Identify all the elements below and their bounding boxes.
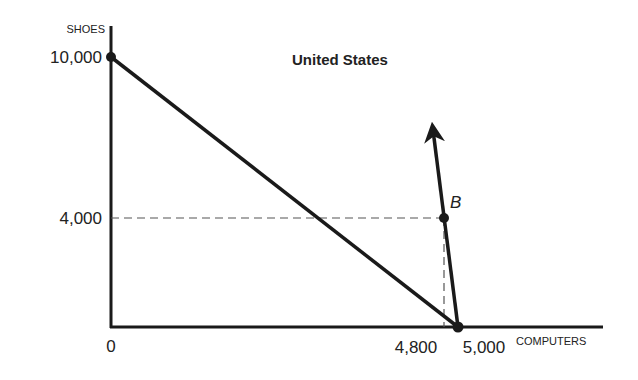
consumption-arrow (433, 130, 458, 327)
point-origin-top (106, 52, 116, 62)
x-tick-4800: 4,800 (395, 338, 438, 357)
x-tick-0: 0 (106, 337, 115, 356)
y-tick-10000: 10,000 (50, 48, 102, 67)
chart-title: United States (292, 51, 388, 68)
ppf-line (111, 57, 458, 327)
point-b (439, 213, 449, 223)
point-x-end (453, 322, 464, 333)
chart: SHOES 10,000 4,000 0 4,800 5,000 COMPUTE… (0, 0, 638, 380)
y-tick-4000: 4,000 (59, 209, 102, 228)
y-axis-label: SHOES (66, 23, 105, 35)
x-axis-label: COMPUTERS (516, 335, 586, 347)
x-tick-5000: 5,000 (463, 338, 506, 357)
point-b-label: B (450, 193, 461, 212)
